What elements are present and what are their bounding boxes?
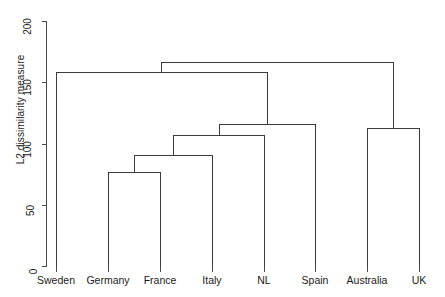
y-axis-label: L2 dissimilarity measure <box>15 20 26 200</box>
merge-germany-france <box>109 173 161 268</box>
y-tick-label-100: 100 <box>22 136 33 164</box>
leaf-label-sweden: Sweden <box>37 274 75 286</box>
y-tick-label-200: 200 <box>22 13 33 41</box>
merge-australia-uk <box>368 129 420 268</box>
y-tick-label-150: 150 <box>22 74 33 102</box>
leaf-label-italy: Italy <box>202 274 221 286</box>
dendrogram-figure: L2 dissimilarity measure 200 150 100 50 … <box>0 0 445 297</box>
dendrogram-tree <box>57 63 420 268</box>
leaf-label-australia: Australia <box>347 274 388 286</box>
leaf-label-uk: UK <box>412 274 427 286</box>
leaf-label-france: France <box>144 274 177 286</box>
leaf-label-nl: NL <box>257 274 270 286</box>
leaf-label-spain: Spain <box>302 274 329 286</box>
dendrogram-canvas <box>0 0 445 297</box>
merge-continental-cluster <box>57 73 268 268</box>
y-tick-label-50: 50 <box>25 197 36 225</box>
merge-west-europe-spain <box>219 125 316 268</box>
leaf-label-germany: Germany <box>86 274 129 286</box>
